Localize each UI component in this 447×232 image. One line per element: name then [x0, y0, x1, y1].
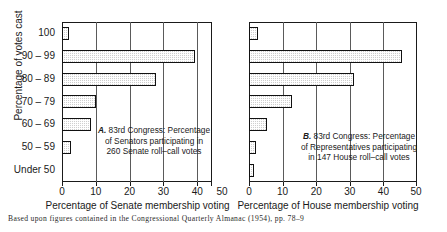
bar-senate-100	[62, 27, 69, 40]
xtick-label-house-10: 10	[277, 186, 288, 197]
bar-row-senate-100	[62, 22, 69, 45]
x-axis-title-house: Percentage of House membership voting	[228, 200, 428, 211]
bar-row-house-50-59	[249, 136, 256, 159]
bar-senate-50-59	[62, 141, 71, 154]
panel-letter-house: B.	[303, 131, 311, 141]
panel-caption-senate: A. 83rd Congress: Percentage of Senators…	[92, 125, 216, 157]
xtick-label-senate-10: 10	[90, 186, 101, 197]
bar-row-house-80-89	[249, 68, 354, 91]
panel-caption-house: B. 83rd Congress: Percentage of Represen…	[292, 131, 426, 163]
xtick-label-senate-20: 20	[124, 186, 135, 197]
bar-house-60-69	[249, 118, 267, 131]
bar-house-100	[249, 27, 258, 40]
bars-senate	[62, 22, 212, 182]
bar-row-house-90-99	[249, 45, 402, 68]
chart-figure: 100 90 – 99 80 – 89 70 – 79 60 – 69 50 –…	[0, 0, 447, 232]
xtick-mark-senate-50	[211, 182, 212, 186]
bar-house-80-89	[249, 73, 354, 86]
x-axis-title-senate: Percentage of Senate membership voting	[40, 200, 235, 211]
xtick-label-house-50: 50	[410, 186, 421, 197]
figure-footnote: Based upon figures contained in the Cong…	[8, 214, 304, 223]
xtick-label-senate-30: 30	[158, 186, 169, 197]
panel-caption-senate-line3: 260 Senate roll–call votes	[92, 146, 216, 157]
xtick-label-senate-0: 0	[59, 186, 65, 197]
xtick-label-house-30: 30	[344, 186, 355, 197]
bar-row-house-under-50	[249, 159, 254, 182]
bar-house-50-59	[249, 141, 256, 154]
y-axis-category-labels: 100 90 – 99 80 – 89 70 – 79 60 – 69 50 –…	[0, 22, 58, 182]
y-category-70-79: 70 – 79	[22, 91, 55, 114]
panel-senate	[62, 22, 212, 182]
bar-row-house-70-79	[249, 91, 292, 114]
bar-house-70-79	[249, 95, 292, 108]
xtick-label-senate-50: 50	[216, 186, 227, 197]
x-axis-ticks-senate: 0 10 20 30 40 50	[62, 182, 212, 196]
y-category-100: 100	[38, 22, 55, 45]
y-axis-title: Percentage of votes cast	[13, 0, 24, 136]
y-category-under-50: Under 50	[14, 159, 55, 182]
panel-caption-house-line1: B. 83rd Congress: Percentage	[292, 131, 426, 142]
panel-caption-senate-text1: 83rd Congress: Percentage	[109, 125, 210, 135]
panel-caption-senate-line2: of Senators participating in	[92, 136, 216, 147]
panel-caption-house-text1: 83rd Congress: Percentage	[314, 131, 415, 141]
bar-row-senate-70-79	[62, 91, 96, 114]
bar-row-senate-80-89	[62, 68, 156, 91]
xtick-label-house-40: 40	[378, 186, 389, 197]
y-category-50-59: 50 – 59	[22, 136, 55, 159]
xtick-label-senate-40: 40	[192, 186, 203, 197]
bar-row-house-60-69	[249, 113, 267, 136]
panel-caption-house-line3: in 147 House roll–call votes	[292, 152, 426, 163]
bar-house-90-99	[249, 50, 402, 63]
y-category-60-69: 60 – 69	[22, 113, 55, 136]
bar-row-house-100	[249, 22, 258, 45]
x-axis-ticks-house: 0 10 20 30 40 50	[249, 182, 417, 196]
bar-senate-90-99	[62, 50, 195, 63]
y-category-80-89: 80 – 89	[22, 68, 55, 91]
bar-senate-80-89	[62, 73, 156, 86]
xtick-label-house-20: 20	[311, 186, 322, 197]
bar-house-under-50	[249, 164, 254, 177]
panel-letter-senate: A.	[98, 125, 106, 135]
bar-row-senate-50-59	[62, 136, 71, 159]
bar-row-senate-60-69	[62, 113, 91, 136]
bar-senate-70-79	[62, 95, 96, 108]
xtick-label-house-0: 0	[246, 186, 252, 197]
y-category-90-99: 90 – 99	[22, 45, 55, 68]
bar-senate-60-69	[62, 118, 91, 131]
panel-caption-house-line2: of Representatives participating	[292, 142, 426, 153]
panel-caption-senate-line1: A. 83rd Congress: Percentage	[92, 125, 216, 136]
bar-row-senate-90-99	[62, 45, 195, 68]
